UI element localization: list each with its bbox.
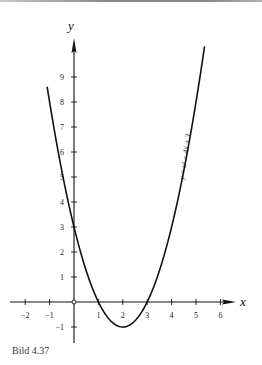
y-tick-label: 3 xyxy=(60,223,64,232)
y-axis-arrow-icon xyxy=(72,38,77,53)
axes xyxy=(10,38,236,343)
parabola-curve xyxy=(47,46,204,327)
x-tick-label: 2 xyxy=(121,311,125,320)
y-tick-label: 2 xyxy=(60,248,64,257)
y-tick-label: 8 xyxy=(60,98,64,107)
curve-equation-label: y = x² − 4x + 3 xyxy=(177,133,193,181)
x-axis-label: x xyxy=(239,294,246,309)
y-tick-label: 4 xyxy=(60,198,64,207)
x-tick-label: 6 xyxy=(218,311,222,320)
y-tick-label: 1 xyxy=(60,273,64,282)
y-axis-label: y xyxy=(66,18,74,33)
origin-marker xyxy=(72,300,76,304)
y-tick-label: 6 xyxy=(60,148,64,157)
x-tick-label: −2 xyxy=(21,311,30,320)
y-tick-label: 7 xyxy=(60,123,64,132)
y-tick-label: −1 xyxy=(55,323,64,332)
figure-caption: Bild 4.37 xyxy=(12,345,49,356)
x-tick-label: 5 xyxy=(194,311,198,320)
x-tick-label: 4 xyxy=(170,311,174,320)
tick-marks xyxy=(25,77,220,327)
x-tick-label: 3 xyxy=(145,311,149,320)
y-tick-label: 9 xyxy=(60,73,64,82)
x-axis-arrow-icon xyxy=(222,300,236,305)
x-tick-label: 1 xyxy=(96,311,100,320)
x-tick-label: −1 xyxy=(45,311,54,320)
parabola-plot: −2−1123456−1123456789 x y y = x² − 4x + … xyxy=(0,0,262,365)
